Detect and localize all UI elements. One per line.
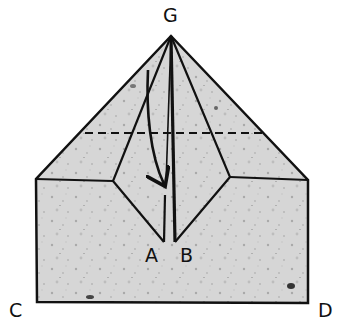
label-b: B (180, 246, 193, 265)
paper-blotch (287, 283, 295, 289)
label-c: C (9, 301, 22, 320)
paper-blotch (214, 106, 218, 110)
label-d: D (318, 301, 333, 320)
label-a: A (145, 246, 158, 265)
origami-diagram (0, 0, 337, 330)
paper-blotch (130, 84, 136, 88)
center-crease-left (164, 195, 165, 242)
label-g: G (163, 6, 178, 25)
paper-blotch (86, 295, 94, 299)
